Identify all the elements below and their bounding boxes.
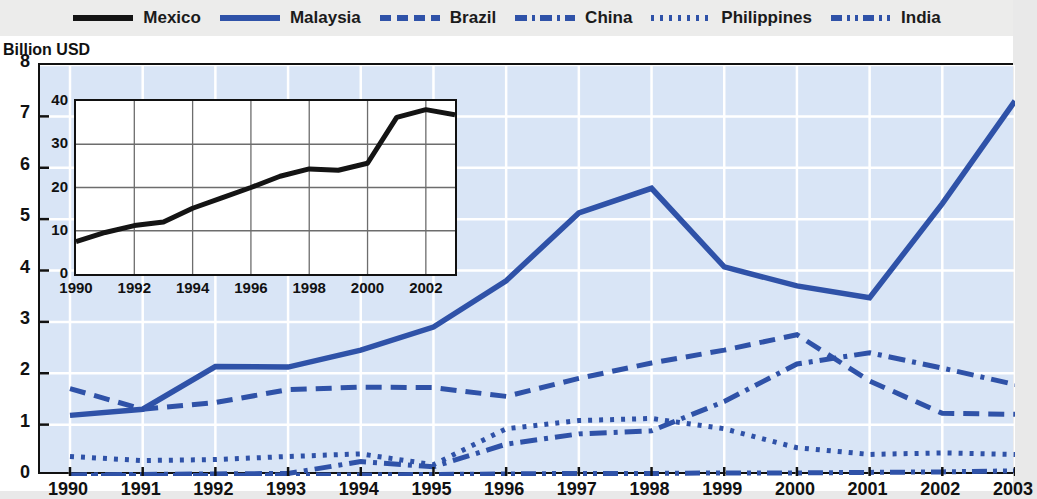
inset-y-axis-tick-label: 30 [38,134,68,151]
y-axis-tick-label: 0 [0,462,30,483]
legend-item-china[interactable]: China [514,8,632,28]
inset-x-axis-tick-label: 1990 [49,279,103,296]
x-axis-tick-label: 2002 [909,479,971,499]
inset-y-axis-tick-label: 20 [38,178,68,195]
legend-line-swatch-icon [72,11,134,25]
x-axis-tick-label: 1990 [37,479,99,499]
legend-line-swatch-icon [219,11,281,25]
x-axis-tick-label: 1998 [619,479,681,499]
legend-line-swatch-icon [830,11,892,25]
legend-line-swatch-icon [650,11,712,25]
inset-x-axis-tick-label: 1996 [224,279,278,296]
inset-x-axis-tick-label: 1992 [107,279,161,296]
legend-item-label: Mexico [143,8,201,28]
legend-item-malaysia[interactable]: Malaysia [219,8,361,28]
y-axis-tick-label: 6 [0,154,30,175]
x-axis-tick-label: 2001 [837,479,899,499]
inset-y-axis-tick-label: 10 [38,221,68,238]
chart-legend: MexicoMalaysiaBrazilChinaPhilippinesIndi… [0,0,1013,36]
x-axis-tick-label: 1996 [473,479,535,499]
y-axis-tick-label: 7 [0,102,30,123]
main-chart-area: Billion USD 876543210 199019911992199319… [0,36,1013,491]
legend-item-label: China [585,8,632,28]
legend-line-swatch-icon [514,11,576,25]
x-axis-tick-label: 1993 [255,479,317,499]
x-axis-tick-label: 1994 [328,479,390,499]
y-axis-tick-label: 3 [0,308,30,329]
inset-chart [74,99,457,276]
x-axis-tick-label: 2000 [764,479,826,499]
legend-item-label: Brazil [450,8,496,28]
y-axis-tick-label: 1 [0,411,30,432]
legend-item-label: Philippines [721,8,812,28]
x-axis-tick-label: 1991 [110,479,172,499]
y-axis-tick-label: 4 [0,257,30,278]
y-axis-tick-label: 5 [0,205,30,226]
legend-item-india[interactable]: India [830,8,941,28]
y-axis-tick-label: 8 [0,51,30,72]
inset-x-axis-tick-label: 2002 [399,279,453,296]
inset-x-axis-tick-label: 1998 [282,279,336,296]
inset-series-line-mexico [76,110,455,242]
legend-item-label: Malaysia [290,8,361,28]
legend-item-philippines[interactable]: Philippines [650,8,812,28]
legend-line-swatch-icon [379,11,441,25]
inset-x-axis-tick-label: 1994 [166,279,220,296]
y-axis-tick-label: 2 [0,359,30,380]
inset-y-axis-tick-label: 40 [38,91,68,108]
legend-item-mexico[interactable]: Mexico [72,8,201,28]
inset-series-svg [76,101,455,274]
x-axis-tick-label: 2003 [982,479,1037,499]
legend-item-brazil[interactable]: Brazil [379,8,496,28]
legend-item-label: India [901,8,941,28]
x-axis-tick-label: 1997 [546,479,608,499]
x-axis-tick-label: 1995 [400,479,462,499]
inset-x-axis-tick-label: 2000 [341,279,395,296]
series-line-brazil [70,335,1015,415]
x-axis-tick-label: 1999 [691,479,753,499]
x-axis-tick-label: 1992 [182,479,244,499]
